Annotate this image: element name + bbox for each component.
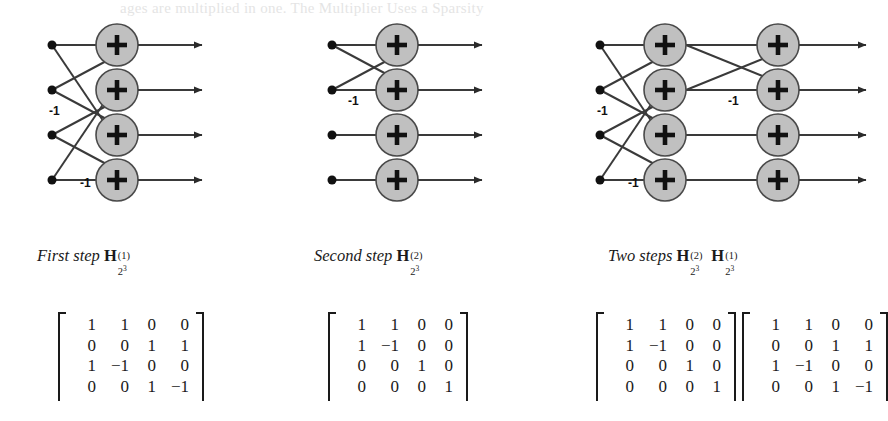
matrix-row: 0 0 0 1: [609, 377, 723, 398]
input-dots-second-step: [328, 41, 337, 185]
matrix-cell: 0: [131, 315, 158, 336]
matrix-row: 1 1 0 0: [341, 315, 455, 336]
matrix-row: 1 −1 0 0: [71, 356, 191, 377]
matrix-cell: 0: [782, 377, 815, 398]
matrix-row: 1 −1 0 0: [341, 336, 455, 357]
matrix-row: 0 0 1 1: [755, 336, 875, 357]
matrix-cell: 0: [609, 377, 636, 398]
matrix-cell: 1: [341, 336, 368, 357]
matrix-cell: 0: [696, 356, 723, 377]
butterfly-diagram-second-step: -1: [310, 18, 535, 222]
diagram-svg-first-step: [30, 18, 255, 218]
matrix-symbol: H: [396, 246, 409, 265]
matrix-cell: 1: [609, 336, 636, 357]
matrix-subscript: 23: [690, 266, 699, 277]
stage1-edges: [52, 45, 117, 180]
matrix-superscript: (1): [118, 250, 130, 261]
matrix-superscript: (2): [690, 250, 702, 261]
matrix-body: 1 1 0 0 0 0 1 1 1 −1 0 0: [750, 312, 880, 401]
matrix-subscript-2: 23: [725, 266, 734, 277]
matrix-cell: −1: [368, 336, 401, 357]
caption-second-step: Second step H(2)23: [314, 246, 409, 266]
adder-nodes-stage1: [644, 24, 686, 201]
diagram-svg-two-steps: [578, 18, 878, 218]
matrix-cell: 0: [428, 336, 455, 357]
caption-prefix: Second step: [314, 246, 396, 265]
matrix-row: 0 0 1 −1: [755, 377, 875, 398]
matrix-h1-product-right: 1 1 0 0 0 0 1 1 1 −1 0 0: [742, 312, 888, 401]
matrix-cell: 1: [696, 377, 723, 398]
caption-first-step: First step H(1)23: [37, 246, 117, 266]
matrix-row: 0 0 1 1: [71, 336, 191, 357]
matrix-cell: 1: [609, 315, 636, 336]
matrix-cell: 0: [669, 336, 696, 357]
matrix-cell: 0: [696, 315, 723, 336]
matrix-row-second-step: 1 1 0 0 1 −1 0 0 0 0 1 0: [328, 312, 468, 401]
matrix-cell: 0: [696, 336, 723, 357]
diagram-svg-second-step: [310, 18, 535, 218]
matrix-cell: 0: [609, 356, 636, 377]
matrix-cell: 0: [368, 377, 401, 398]
matrix-cell: 1: [401, 356, 428, 377]
bracket-right: [460, 312, 468, 401]
weight-label-minus-one: -1: [49, 104, 60, 118]
matrix-cell: 1: [636, 315, 669, 336]
matrix-subscript: 23: [118, 266, 127, 277]
matrix-cell: 1: [755, 315, 782, 336]
matrix-cell: −1: [782, 356, 815, 377]
matrix-body: 1 1 0 0 1 −1 0 0 0 0 1 0: [336, 312, 460, 401]
matrix-cell: 0: [782, 336, 815, 357]
butterfly-diagram-two-steps: -1 -1 -1: [578, 18, 878, 222]
matrix-body: 1 1 0 0 1 −1 0 0 0 0 1 0: [604, 312, 728, 401]
bracket-right: [196, 312, 204, 401]
matrix-cell: −1: [842, 377, 875, 398]
matrix-cell: 0: [428, 315, 455, 336]
matrix-cell: 0: [842, 356, 875, 377]
bracket-left: [596, 312, 604, 401]
matrix-cell: 0: [98, 377, 131, 398]
matrix-cell: 0: [71, 377, 98, 398]
weight-label-minus-one: -1: [348, 94, 359, 108]
matrix-row: 0 0 1 0: [609, 356, 723, 377]
weight-label-minus-one: -1: [597, 104, 608, 118]
matrix-cell: −1: [636, 336, 669, 357]
bracket-left: [328, 312, 336, 401]
matrix-row: 0 0 0 1: [341, 377, 455, 398]
matrix-cell: 0: [98, 336, 131, 357]
matrix-subscript: 23: [410, 266, 419, 277]
matrix-cell: 0: [401, 377, 428, 398]
matrix-cell: −1: [158, 377, 191, 398]
matrix-cell: 0: [158, 356, 191, 377]
matrix-cell: 0: [368, 356, 401, 377]
matrix-symbol-2: H: [711, 246, 724, 265]
matrix-body: 1 1 0 0 0 0 1 1 1 −1 0 0: [66, 312, 196, 401]
matrix-cell: 1: [782, 315, 815, 336]
adder-nodes-stage1: [96, 24, 138, 201]
matrix-cell: 0: [401, 336, 428, 357]
matrix-cell: 1: [428, 377, 455, 398]
matrix-cell: 1: [131, 336, 158, 357]
matrix-cell: 0: [669, 315, 696, 336]
matrix-row-first-step: 1 1 0 0 0 0 1 1 1 −1 0 0: [58, 312, 204, 401]
butterfly-diagram-first-step: -1 -1: [30, 18, 255, 222]
matrix-cell: 0: [401, 315, 428, 336]
matrix-cell: 1: [842, 336, 875, 357]
matrix-cell: 0: [341, 356, 368, 377]
matrix-cell: 0: [669, 377, 696, 398]
matrix-row: 1 −1 0 0: [755, 356, 875, 377]
bracket-right: [728, 312, 736, 401]
matrix-row: 1 −1 0 0: [609, 336, 723, 357]
matrix-cell: 1: [368, 315, 401, 336]
output-arrows-first-step: [138, 45, 202, 180]
stage2-edges: [686, 45, 778, 180]
stage1-edges: [600, 45, 665, 180]
matrix-cell: 0: [428, 356, 455, 377]
matrix-superscript-2: (1): [725, 250, 737, 261]
matrix-cell: 0: [71, 336, 98, 357]
matrix-cell: 1: [131, 377, 158, 398]
matrix-cell: 0: [158, 315, 191, 336]
matrix-cell: 0: [131, 356, 158, 377]
matrix-cell: 0: [636, 356, 669, 377]
stage1-edges: [332, 45, 397, 180]
